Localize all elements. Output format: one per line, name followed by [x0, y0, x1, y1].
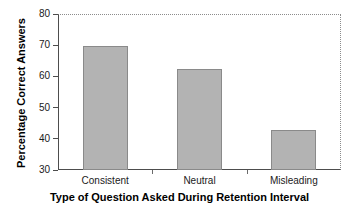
bar — [271, 130, 316, 170]
y-axis-tick-label: 80 — [22, 9, 50, 19]
bar — [83, 46, 128, 170]
bar — [177, 69, 222, 170]
y-axis-tick-label: 40 — [22, 134, 50, 144]
x-axis-tick-mark — [152, 170, 153, 174]
y-axis-tick-label: 60 — [22, 71, 50, 81]
x-axis-category-label: Consistent — [55, 175, 155, 186]
x-axis-title: Type of Question Asked During Retention … — [0, 191, 359, 203]
y-axis-tick-label: 70 — [22, 40, 50, 50]
x-axis-category-label: Misleading — [244, 175, 344, 186]
y-axis-title: Percentage Correct Answers — [14, 8, 28, 178]
x-axis-tick-mark — [247, 170, 248, 174]
bar-chart-figure: Percentage Correct Answers 304050607080 … — [0, 0, 359, 207]
y-axis-tick-label: 50 — [22, 103, 50, 113]
x-axis-category-label: Neutral — [150, 175, 250, 186]
y-axis-tick-label: 30 — [22, 165, 50, 175]
